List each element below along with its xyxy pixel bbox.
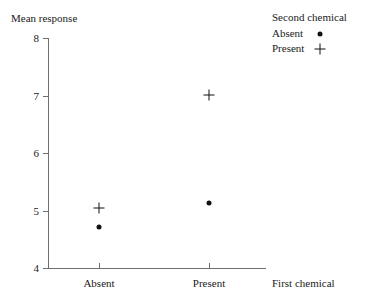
interaction-plot: Mean response 8 7 6 5 4 Absent Present F… <box>0 0 369 304</box>
data-point-dot-absent-absent <box>97 225 102 230</box>
x-axis-line <box>48 268 266 269</box>
legend-label-absent: Absent <box>272 26 303 41</box>
y-tick-label-7: 7 <box>24 91 39 102</box>
legend: Second chemical Absent Present <box>272 10 347 56</box>
legend-item-present: Present <box>272 41 347 56</box>
dot-marker-icon <box>318 32 323 37</box>
y-tick-label-5: 5 <box>24 206 39 217</box>
x-tick-mark-absent <box>99 263 100 269</box>
y-tick-mark-4 <box>43 268 49 269</box>
plus-marker-icon <box>315 44 326 55</box>
y-tick-mark-8 <box>43 38 49 39</box>
data-point-plus-present-present <box>204 90 215 101</box>
y-tick-mark-5 <box>43 211 49 212</box>
y-axis-label: Mean response <box>11 12 77 25</box>
legend-label-present: Present <box>272 41 304 56</box>
x-axis-title: First chemical <box>272 277 335 290</box>
data-point-dot-present-absent <box>207 201 212 206</box>
x-tick-mark-present <box>209 263 210 269</box>
y-tick-mark-6 <box>43 153 49 154</box>
x-tick-label-absent: Absent <box>83 277 114 290</box>
y-tick-label-4: 4 <box>24 263 39 274</box>
legend-title: Second chemical <box>272 10 347 25</box>
legend-item-absent: Absent <box>272 26 347 41</box>
x-tick-label-present: Present <box>193 277 225 290</box>
data-point-plus-absent-absent <box>94 203 105 214</box>
y-tick-mark-7 <box>43 96 49 97</box>
y-tick-label-6: 6 <box>24 148 39 159</box>
y-tick-label-8: 8 <box>24 33 39 44</box>
